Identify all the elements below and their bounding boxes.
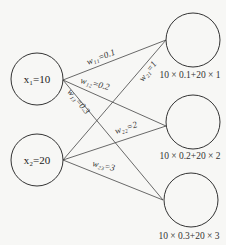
output-sum-3: 10 × 0.3+20 × 3 xyxy=(158,231,219,241)
weight-label-w21: w₂₁=1 xyxy=(137,59,159,83)
output-sum-1: 10 × 0.1+20 × 1 xyxy=(159,70,220,80)
weight-label-w23: w₂₃=3 xyxy=(92,158,117,173)
output-sum-2: 10 × 0.2+20 × 2 xyxy=(159,151,220,161)
output-node-3 xyxy=(164,173,218,227)
weight-label-w22: w₂₂=2 xyxy=(114,119,139,136)
input-label-x2: x₂=20 xyxy=(24,154,51,166)
input-label-x1: x₁=10 xyxy=(24,73,51,85)
network-diagram: x₁=10 x₂=20 10 × 0.1+20 × 1 10 × 0.2+20 … xyxy=(0,0,226,245)
output-node-1 xyxy=(166,13,220,67)
weight-label-w11: w₁₁=0.1 xyxy=(85,47,116,67)
output-node-2 xyxy=(166,95,220,149)
